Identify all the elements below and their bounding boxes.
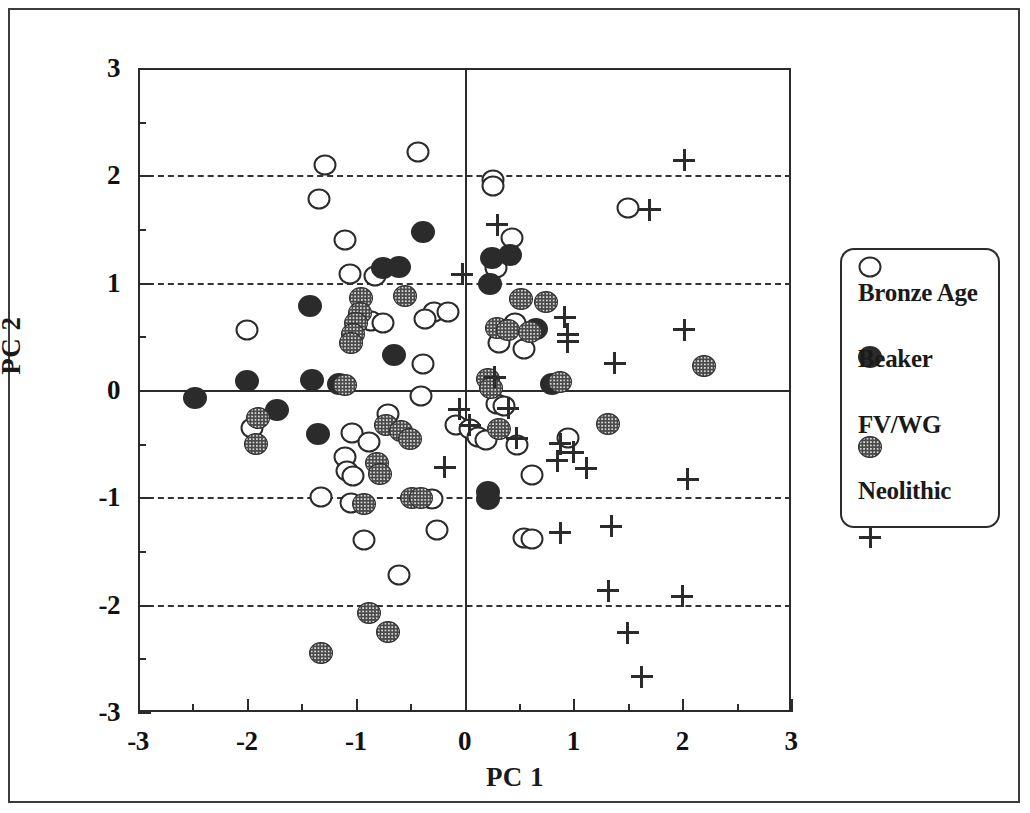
x-ticklabel--3: -3 (127, 726, 149, 757)
data-point-bronze-age (406, 141, 429, 162)
data-point-bronze-age (342, 465, 365, 486)
x-ticklabel--1: -1 (345, 726, 367, 757)
data-point-neolithic (671, 585, 693, 607)
x-ticklabel-1: 1 (567, 726, 580, 757)
y-ticklabel-0: 0 (72, 375, 120, 406)
data-point-neolithic (434, 456, 456, 478)
plus-icon (859, 526, 881, 548)
y-ticklabel--3: -3 (72, 697, 120, 728)
data-point-fv-wg (548, 371, 572, 393)
data-point-neolithic (677, 468, 699, 490)
data-point-neolithic (617, 622, 639, 644)
data-point-bronze-age (481, 176, 504, 197)
data-point-neolithic (549, 522, 571, 544)
data-point-neolithic (486, 214, 508, 236)
x-tick-3 (791, 699, 793, 712)
data-point-bronze-age (309, 487, 332, 508)
data-point-fv-wg (244, 433, 268, 455)
data-point-beaker (300, 369, 324, 391)
data-point-fv-wg (368, 463, 392, 485)
data-point-neolithic (604, 352, 626, 374)
x-ticklabel--2: -2 (236, 726, 258, 757)
data-point-fv-wg (496, 319, 520, 341)
data-point-neolithic (459, 414, 481, 436)
data-point-beaker (382, 344, 406, 366)
data-point-fv-wg (357, 602, 381, 624)
data-point-fv-wg (596, 413, 620, 435)
y-ticklabel--1: -1 (72, 482, 120, 513)
data-point-neolithic (497, 397, 519, 419)
data-point-fv-wg (333, 374, 357, 396)
data-point-beaker (371, 257, 395, 279)
data-point-beaker (298, 295, 322, 317)
data-point-bronze-age (437, 301, 460, 322)
data-point-beaker (478, 273, 502, 295)
data-point-fv-wg (509, 288, 533, 310)
data-point-beaker (480, 247, 504, 269)
data-point-bronze-age (412, 354, 435, 375)
data-point-neolithic (600, 515, 622, 537)
data-point-fv-wg (352, 493, 376, 515)
data-point-neolithic (639, 199, 661, 221)
data-point-fv-wg (409, 487, 433, 509)
data-point-fv-wg (339, 332, 363, 354)
x-ticklabel-3: 3 (785, 726, 798, 757)
data-point-bronze-age (353, 530, 376, 551)
data-point-neolithic (631, 666, 653, 688)
y-tick--3 (138, 712, 151, 714)
legend-label-bronze-age: Bronze Age (858, 280, 977, 305)
data-point-neolithic (597, 580, 619, 602)
data-point-neolithic (575, 457, 597, 479)
stippled-circle-icon (858, 436, 882, 458)
data-point-neolithic (506, 427, 528, 449)
y-ticklabel--2: -2 (72, 589, 120, 620)
data-point-bronze-age (333, 229, 356, 250)
data-markers (138, 68, 791, 712)
legend-label-neolithic: Neolithic (858, 478, 951, 503)
data-point-neolithic (557, 331, 579, 353)
legend-box: Bronze AgeBeakerFV/WGNeolithic (840, 248, 1000, 528)
data-point-fv-wg (398, 428, 422, 450)
data-point-bronze-age (616, 197, 639, 218)
plot-area (138, 68, 791, 712)
data-point-bronze-age (388, 564, 411, 585)
data-point-beaker (411, 221, 435, 243)
data-point-bronze-age (314, 154, 337, 175)
data-point-bronze-age (409, 386, 432, 407)
y-ticklabel-2: 2 (72, 160, 120, 191)
data-point-bronze-age (520, 529, 543, 550)
open-circle-icon (859, 257, 882, 278)
legend-symbol-plus (858, 526, 884, 550)
data-point-bronze-age (339, 264, 362, 285)
y-axis-label: PC 2 (0, 316, 27, 374)
data-point-beaker (235, 370, 259, 392)
data-point-fv-wg (246, 407, 270, 429)
legend-label-beaker: Beaker (858, 346, 933, 371)
data-point-bronze-age (520, 464, 543, 485)
data-point-fv-wg (692, 355, 716, 377)
x-ticklabel-0: 0 (458, 726, 471, 757)
figure-root: -3-2-101233210-1-2-3 PC 1 PC 2 Bronze Ag… (0, 0, 1030, 813)
data-point-fv-wg (518, 321, 542, 343)
data-point-neolithic (484, 366, 506, 388)
data-point-bronze-age (414, 309, 437, 330)
data-point-fv-wg (393, 285, 417, 307)
y-ticklabel-1: 1 (72, 267, 120, 298)
data-point-fv-wg (376, 621, 400, 643)
data-point-bronze-age (357, 431, 380, 452)
data-point-neolithic (546, 450, 568, 472)
data-point-beaker (306, 423, 330, 445)
data-point-bronze-age (307, 188, 330, 209)
legend-symbol-open-circle (858, 256, 884, 280)
x-axis-label: PC 1 (0, 762, 1030, 793)
data-point-neolithic (451, 263, 473, 285)
legend-label-fv-wg: FV/WG (858, 412, 941, 437)
data-point-bronze-age (371, 313, 394, 334)
data-point-beaker (183, 387, 207, 409)
x-ticklabel-2: 2 (676, 726, 689, 757)
data-point-neolithic (673, 319, 695, 341)
y-ticklabel-3: 3 (72, 53, 120, 84)
data-point-beaker (476, 488, 500, 510)
data-point-fv-wg (309, 642, 333, 664)
data-point-bronze-age (426, 519, 449, 540)
